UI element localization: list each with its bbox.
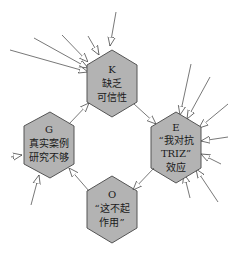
arrow-into-e — [201, 137, 228, 141]
node-o-line-1: “这不起 — [94, 202, 129, 214]
arrow-into-k — [110, 12, 116, 46]
edge-g-to-k — [69, 103, 89, 124]
arrow-into-k — [10, 50, 88, 72]
arrow-into-e — [196, 169, 218, 202]
node-k: K 缺乏 可信性 — [87, 50, 137, 117]
reinforcing-loop-diagram: K 缺乏 可信性 E “我对抗 TRIZ” 效应 G 真实案例 研究不够 O “… — [0, 0, 240, 255]
arrow-into-k — [88, 36, 99, 55]
arrow-into-g — [31, 175, 39, 205]
node-g-id: G — [45, 124, 53, 135]
node-k-id: K — [108, 64, 116, 75]
node-k-line-1: 缺乏 — [102, 77, 122, 89]
arrow-into-e — [180, 64, 191, 115]
node-e-line-1: “我对抗 — [158, 134, 193, 146]
arrow-into-e — [201, 154, 221, 164]
node-g: G 真实案例 研究不够 — [24, 112, 74, 178]
node-e-line-2: TRIZ” — [161, 148, 191, 159]
arrow-into-e — [199, 104, 228, 128]
node-o-line-2: 作用” — [99, 217, 124, 228]
node-k-line-2: 可信性 — [97, 91, 127, 103]
edge-e-to-o — [133, 168, 154, 190]
node-e-line-3: 效应 — [166, 161, 186, 173]
arrow-into-e — [187, 77, 210, 119]
edge-k-to-e — [134, 104, 156, 124]
node-e: E “我对抗 TRIZ” 效应 — [151, 112, 201, 183]
node-o: O “这不起 作用” — [87, 176, 137, 243]
arrow-into-k — [34, 38, 88, 68]
node-g-line-2: 研究不够 — [29, 151, 69, 163]
node-o-id: O — [108, 189, 116, 200]
arrow-into-g — [11, 155, 22, 157]
node-e-id: E — [172, 122, 179, 133]
edge-o-to-g — [69, 168, 89, 191]
node-g-line-1: 真实案例 — [29, 137, 69, 149]
arrow-into-k — [62, 35, 88, 62]
